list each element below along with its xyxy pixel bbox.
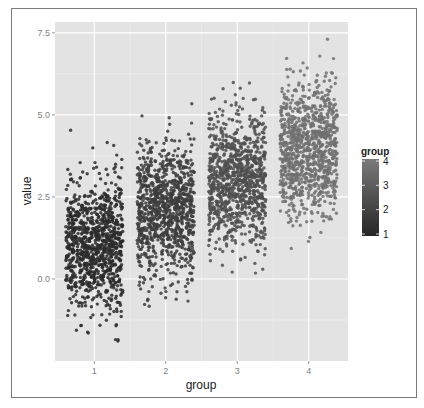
x-tick-label: 2 — [163, 366, 168, 376]
x-tick-label: 3 — [235, 366, 240, 376]
legend: group 4321 — [361, 146, 389, 240]
x-axis-title: group — [186, 378, 217, 392]
legend-label: 1 — [383, 229, 389, 240]
y-tick-label: 7.5 — [37, 28, 50, 38]
x-axis: 1234 — [92, 361, 311, 376]
x-tick-label: 1 — [92, 366, 97, 376]
scatter-chart: 0.02.55.07.5 1234 group value group 4321 — [0, 0, 424, 408]
y-tick-label: 5.0 — [37, 110, 50, 120]
legend-label: 2 — [383, 204, 389, 215]
y-tick-label: 2.5 — [37, 192, 50, 202]
y-tick-label: 0.0 — [37, 274, 50, 284]
legend-colorbar — [362, 159, 379, 236]
y-axis: 0.02.55.07.5 — [37, 28, 55, 284]
legend-label: 3 — [383, 180, 389, 191]
legend-label: 4 — [383, 156, 389, 167]
y-axis-title: value — [20, 176, 34, 205]
x-tick-label: 4 — [306, 366, 311, 376]
